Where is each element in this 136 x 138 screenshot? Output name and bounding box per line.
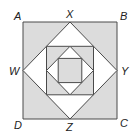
label-c: C — [120, 117, 128, 129]
label-z: Z — [65, 121, 74, 133]
label-a: A — [13, 10, 21, 22]
label-x: X — [65, 8, 74, 20]
label-b: B — [120, 10, 127, 22]
label-d: D — [14, 119, 22, 131]
inner-square-3 — [58, 58, 82, 82]
label-y: Y — [121, 65, 129, 77]
nested-squares-diagram: A X B W Y D Z C — [0, 0, 136, 138]
label-w: W — [9, 65, 21, 77]
